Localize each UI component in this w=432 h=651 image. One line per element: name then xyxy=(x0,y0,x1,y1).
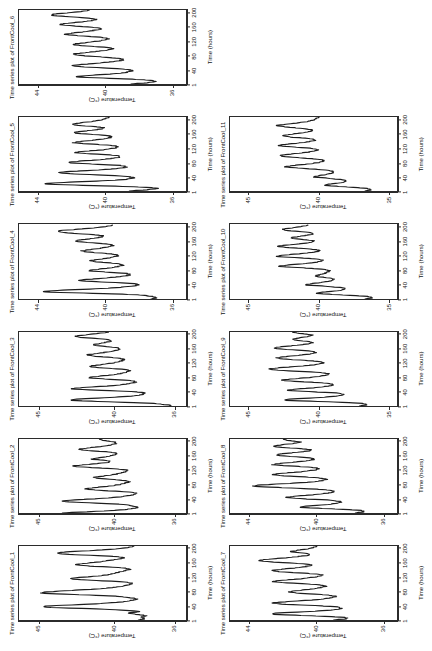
x-tick-mark xyxy=(187,513,190,514)
y-tick-label: 40 xyxy=(315,411,321,418)
y-tick-mark xyxy=(39,514,40,517)
x-tick-label: 1 xyxy=(191,191,197,194)
y-tick-label: 45 xyxy=(35,626,41,633)
x-axis-label: Time (hours) xyxy=(417,223,424,299)
y-tick-label: 40 xyxy=(102,197,108,204)
y-axis-line xyxy=(18,300,187,301)
x-tick-mark xyxy=(398,299,401,300)
x-tick-label: 80 xyxy=(191,53,197,60)
x-tick-label: 80 xyxy=(191,267,197,274)
y-tick-mark xyxy=(249,621,250,624)
y-tick-mark xyxy=(105,300,106,303)
x-axis-label: Time (hours) xyxy=(206,438,213,514)
x-tick-label: 200 xyxy=(402,543,408,553)
y-tick-mark xyxy=(384,514,385,517)
x-tick-mark xyxy=(398,178,401,179)
x-tick-mark xyxy=(187,178,190,179)
x-tick-mark xyxy=(187,563,190,564)
y-axis-ticks: 364044 xyxy=(229,514,398,540)
x-tick-label: 40 xyxy=(191,496,197,503)
x-axis-label: Time (hours) xyxy=(206,331,213,407)
x-tick-mark xyxy=(187,406,190,407)
x-tick-mark xyxy=(398,456,401,457)
x-tick-label: 1 xyxy=(191,512,197,515)
y-axis-line xyxy=(18,407,187,408)
x-axis-line xyxy=(187,331,188,407)
series-line xyxy=(276,225,372,299)
y-axis-ticks: 354045 xyxy=(229,192,398,218)
plot-frame xyxy=(18,438,187,514)
plot-area xyxy=(229,545,398,621)
x-tick-label: 160 xyxy=(191,22,197,32)
x-tick-label: 120 xyxy=(191,37,197,47)
x-tick-label: 120 xyxy=(402,144,408,154)
x-tick-label: 120 xyxy=(191,465,197,475)
y-tick-mark xyxy=(175,407,176,410)
x-axis-label: Time (hours) xyxy=(417,331,424,407)
x-tick-label: 120 xyxy=(191,251,197,261)
plot-area xyxy=(229,223,398,299)
x-axis-ticks: 14080120160200 xyxy=(187,545,199,621)
x-tick-mark xyxy=(187,163,190,164)
plot-frame xyxy=(18,331,187,407)
y-tick-mark xyxy=(319,192,320,195)
x-axis-ticks: 14080120160200 xyxy=(398,438,410,514)
series-line xyxy=(252,439,363,513)
y-axis-line xyxy=(18,85,187,86)
x-axis-label: Time (hours) xyxy=(206,116,213,192)
x-tick-mark xyxy=(398,119,401,120)
x-tick-label: 1 xyxy=(402,298,408,301)
x-tick-mark xyxy=(398,577,401,578)
plot-frame xyxy=(229,331,398,407)
x-tick-mark xyxy=(187,392,190,393)
x-tick-mark xyxy=(398,470,401,471)
x-tick-label: 160 xyxy=(191,344,197,354)
series-line xyxy=(276,118,371,192)
x-axis-ticks: 14080120160200 xyxy=(398,116,410,192)
series-line xyxy=(43,225,156,299)
y-tick-label: 45 xyxy=(35,411,41,418)
x-tick-label: 200 xyxy=(191,543,197,553)
plot-title: Time series plot of FrontCool_4 xyxy=(8,218,15,325)
x-tick-mark xyxy=(398,256,401,257)
x-tick-mark xyxy=(187,56,190,57)
y-tick-mark xyxy=(389,407,390,410)
y-axis-ticks: 364044 xyxy=(18,300,187,326)
plot-frame xyxy=(18,116,187,192)
x-axis-ticks: 14080120160200 xyxy=(398,545,410,621)
x-axis-label: Time (hours) xyxy=(206,545,213,621)
series-line xyxy=(45,118,158,192)
plot-area xyxy=(229,116,398,192)
y-tick-label: 35 xyxy=(386,411,392,418)
y-tick-mark xyxy=(248,192,249,195)
y-tick-mark xyxy=(249,514,250,517)
y-tick-mark xyxy=(175,621,176,624)
x-axis-line xyxy=(398,116,399,192)
x-axis-line xyxy=(187,116,188,192)
x-tick-mark xyxy=(187,285,190,286)
y-tick-mark xyxy=(319,407,320,410)
plot-title: Time series plot of FrontCool_3 xyxy=(8,326,15,433)
x-tick-label: 120 xyxy=(402,465,408,475)
figure-canvas: Time series plot of FrontCool_1Temperatu… xyxy=(0,0,432,651)
y-tick-label: 36 xyxy=(171,626,177,633)
x-axis-ticks: 14080120160200 xyxy=(187,116,199,192)
x-tick-mark xyxy=(398,606,401,607)
plot-frame xyxy=(229,438,398,514)
x-tick-mark xyxy=(398,499,401,500)
x-tick-mark xyxy=(187,577,190,578)
plot-panel: Time series plot of FrontCool_3Temperatu… xyxy=(6,326,217,433)
x-tick-label: 1 xyxy=(191,619,197,622)
y-tick-mark xyxy=(173,300,174,303)
x-tick-mark xyxy=(398,134,401,135)
x-tick-mark xyxy=(398,563,401,564)
x-axis-line xyxy=(398,223,399,299)
x-tick-label: 40 xyxy=(402,282,408,289)
y-tick-label: 40 xyxy=(315,197,321,204)
x-tick-label: 40 xyxy=(402,496,408,503)
plot-area xyxy=(18,223,187,299)
y-axis-ticks: 354045 xyxy=(229,407,398,433)
y-tick-mark xyxy=(114,407,115,410)
x-tick-mark xyxy=(187,348,190,349)
x-tick-label: 160 xyxy=(402,558,408,568)
